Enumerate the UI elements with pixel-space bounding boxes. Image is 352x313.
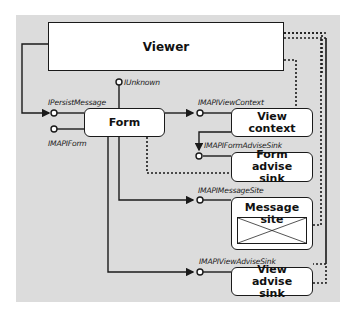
view-advise-sink-label: View advise sink	[244, 264, 300, 300]
form-advise-sink-label: Form advise sink	[242, 149, 302, 185]
iunknown-label: IUnknown	[124, 78, 160, 87]
viewer-box: Viewer	[48, 22, 284, 71]
placeholder-cross-icon	[238, 218, 306, 243]
imapiviewadvisesink-label: IMAPIViewAdviseSink	[199, 257, 276, 266]
form-advise-sink-box: Form advise sink	[231, 152, 313, 182]
imapiviewcontext-label: IMAPIViewContext	[198, 98, 264, 107]
viewer-label: Viewer	[143, 41, 189, 53]
imapiform-label: IMAPIForm	[48, 139, 87, 148]
imapiformadvisesink-label: IMAPIFormAdviseSink	[204, 141, 282, 150]
view-advise-sink-box: View advise sink	[231, 267, 313, 296]
form-label: Form	[109, 117, 141, 129]
message-site-box: Message site	[231, 197, 313, 250]
view-context-label: View context	[232, 111, 312, 135]
mapi-form-architecture-diagram: Viewer Form View context Form advise sin…	[0, 0, 352, 313]
view-context-box: View context	[231, 108, 313, 137]
form-box: Form	[84, 108, 165, 137]
message-site-placeholder-frame	[237, 217, 307, 244]
imapimessagesite-label: IMAPIMessageSite	[198, 186, 263, 195]
ipersistmessage-label: IPersistMessage	[48, 98, 106, 107]
